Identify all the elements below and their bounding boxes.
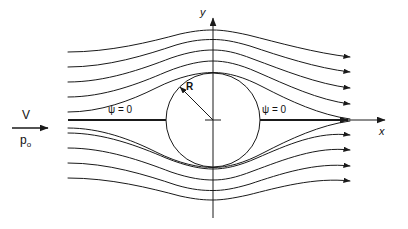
- streamline-lower-1: [68, 178, 350, 200]
- streamline-lower-5: [68, 121, 350, 168]
- inflow-pressure-label: po: [20, 134, 31, 149]
- streamline-upper-4: [68, 61, 350, 104]
- psi-zero-label-left: ψ = 0: [108, 105, 132, 115]
- y-axis-label: y: [200, 7, 206, 18]
- streamline-upper-3: [68, 50, 350, 88]
- streamline-lower-3: [68, 148, 350, 180]
- x-axis-label: x: [379, 126, 385, 137]
- streamline-lower-4: [68, 133, 350, 169]
- psi-zero-label-right: ψ = 0: [262, 105, 286, 115]
- inflow-pressure-symbol: p: [20, 133, 27, 147]
- radius-label: R: [186, 82, 193, 92]
- inflow-velocity-label: V: [22, 109, 30, 121]
- streamlines-lower: [68, 121, 350, 200]
- streamline-upper-1: [68, 30, 350, 57]
- flow-diagram: y x R ψ = 0 ψ = 0 V po: [0, 0, 408, 229]
- streamline-upper-2: [68, 40, 350, 73]
- radius-arrow: [180, 87, 213, 120]
- diagram-canvas: [0, 0, 408, 229]
- inflow-pressure-subscript: o: [27, 140, 31, 149]
